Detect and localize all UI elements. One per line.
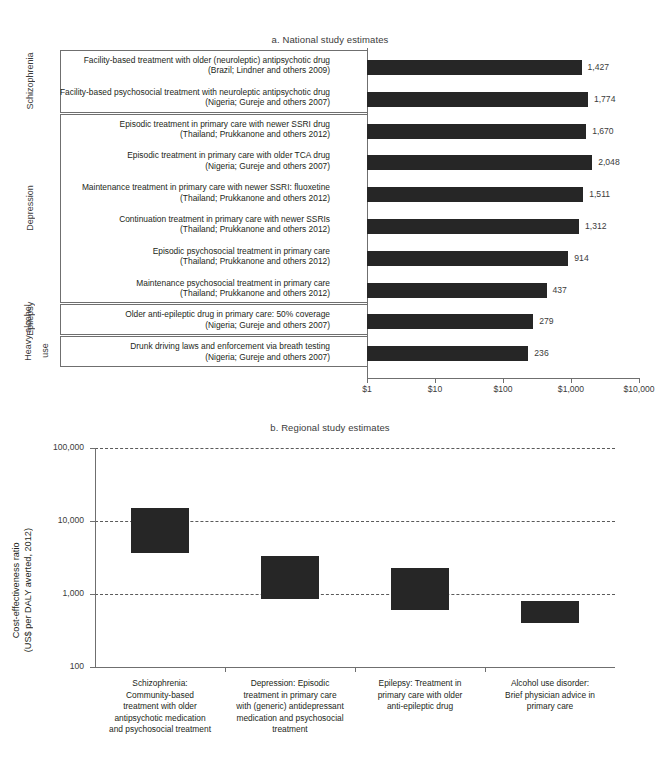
gridline bbox=[95, 594, 615, 595]
row-label-line2: (Thailand; Prukkanone and others 2012) bbox=[45, 288, 330, 298]
y-tick-label: 1,000 bbox=[22, 588, 84, 598]
y-tick-label: 100 bbox=[22, 661, 84, 671]
range-box bbox=[261, 556, 319, 599]
y-tick bbox=[90, 448, 96, 449]
x-tick-label: $10,000 bbox=[623, 384, 654, 394]
table-row: Maintenance treatment in primary care wi… bbox=[60, 182, 660, 208]
bar-value-label: 437 bbox=[553, 283, 567, 298]
row-label: Episodic treatment in primary care with … bbox=[45, 119, 330, 140]
table-row: Episodic treatment in primary care with … bbox=[60, 150, 660, 176]
row-label-line1: Continuation treatment in primary care w… bbox=[45, 214, 330, 224]
group-label-heavy: Heavy alcohol bbox=[24, 298, 33, 368]
panel-national-study-estimates: a. National study estimates Schizophreni… bbox=[0, 0, 660, 400]
y-tick bbox=[90, 521, 96, 522]
x-category-label-line: primary care with older bbox=[355, 690, 485, 702]
x-category-label-line: Epilepsy: Treatment in bbox=[355, 678, 485, 690]
x-tick-label: $1,000 bbox=[558, 384, 584, 394]
table-row: Maintenance psychosocial treatment in pr… bbox=[60, 278, 660, 304]
group-separator bbox=[60, 336, 367, 337]
panel-regional-study-estimates: b. Regional study estimates Cost-effecti… bbox=[0, 400, 660, 758]
row-label-line2: (Nigeria; Gureje and others 2007) bbox=[45, 97, 330, 107]
bar-value-label: 914 bbox=[574, 251, 588, 266]
x-category-label: Depression: Episodictreatment in primary… bbox=[225, 678, 355, 736]
range-box bbox=[391, 568, 449, 611]
x-category-label-line: antipsychotic medication bbox=[95, 713, 225, 725]
group-label-schizophrenia: Schizophrenia bbox=[26, 50, 35, 112]
bar bbox=[367, 92, 588, 107]
bar bbox=[367, 283, 547, 298]
x-category-label-line: Alcohol use disorder: bbox=[485, 678, 615, 690]
row-label-line1: Facility-based treatment with older (neu… bbox=[45, 55, 330, 65]
range-box bbox=[131, 508, 189, 553]
row-label: Drunk driving laws and enforcement via b… bbox=[45, 341, 330, 362]
x-tick bbox=[367, 378, 368, 383]
row-label-line1: Episodic psychosocial treatment in prima… bbox=[45, 246, 330, 256]
row-label-line1: Older anti-epileptic drug in primary car… bbox=[45, 309, 330, 319]
row-label-line2: (Thailand; Prukkanone and others 2012) bbox=[45, 193, 330, 203]
panel-a-title: a. National study estimates bbox=[0, 34, 660, 45]
bar-value-label: 279 bbox=[539, 314, 553, 329]
x-tick bbox=[639, 378, 640, 383]
row-label-line2: (Thailand; Prukkanone and others 2012) bbox=[45, 256, 330, 266]
x-tick bbox=[355, 667, 356, 672]
row-label: Episodic psychosocial treatment in prima… bbox=[45, 246, 330, 267]
x-tick bbox=[485, 667, 486, 672]
bar bbox=[367, 187, 583, 202]
gridline bbox=[95, 448, 615, 449]
x-category-label-line: treatment in primary care bbox=[225, 690, 355, 702]
x-category-label-line: and psychosocial treatment bbox=[95, 724, 225, 736]
x-category-label-line: treatment bbox=[225, 724, 355, 736]
x-category-label: Schizophrenia:Community-basedtreatment w… bbox=[95, 678, 225, 736]
x-category-label-line: medication and psychosocial bbox=[225, 713, 355, 725]
bar-value-label: 1,670 bbox=[592, 124, 614, 139]
x-category-label-line: treatment with older bbox=[95, 701, 225, 713]
y-tick-label: 10,000 bbox=[22, 515, 84, 525]
x-category-label-line: with (generic) antidepressant bbox=[225, 701, 355, 713]
x-category-label-line: Depression: Episodic bbox=[225, 678, 355, 690]
y-axis-label-line1: Cost-effectiveness ratio bbox=[10, 528, 22, 652]
group-label-depression: Depression bbox=[26, 114, 35, 303]
range-box bbox=[521, 601, 579, 623]
bar bbox=[367, 60, 582, 75]
row-label-line2: (Thailand; Prukkanone and others 2012) bbox=[45, 224, 330, 234]
row-label-line1: Drunk driving laws and enforcement via b… bbox=[45, 341, 330, 351]
x-tick-label: $1 bbox=[362, 384, 372, 394]
bar bbox=[367, 219, 579, 234]
group-separator bbox=[60, 304, 367, 305]
x-tick bbox=[435, 378, 436, 383]
table-row: Older anti-epileptic drug in primary car… bbox=[60, 309, 660, 335]
table-row: Facility-based treatment with older (neu… bbox=[60, 55, 660, 81]
x-category-label-line: Brief physician advice in bbox=[485, 690, 615, 702]
row-label: Continuation treatment in primary care w… bbox=[45, 214, 330, 235]
row-label: Facility-based treatment with older (neu… bbox=[45, 55, 330, 76]
row-label: Maintenance psychosocial treatment in pr… bbox=[45, 278, 330, 299]
y-tick-label: 100,000 bbox=[22, 442, 84, 452]
panel-b-y-axis bbox=[95, 448, 96, 667]
x-tick bbox=[571, 378, 572, 383]
row-label-line1: Maintenance treatment in primary care wi… bbox=[45, 182, 330, 192]
row-label: Older anti-epileptic drug in primary car… bbox=[45, 309, 330, 330]
table-row: Facility-based psychosocial treatment wi… bbox=[60, 87, 660, 113]
x-tick-label: $10 bbox=[428, 384, 442, 394]
table-row: Continuation treatment in primary care w… bbox=[60, 214, 660, 240]
x-category-label-line: Community-based bbox=[95, 690, 225, 702]
row-label-line2: (Thailand; Prukkanone and others 2012) bbox=[45, 129, 330, 139]
bar bbox=[367, 346, 528, 361]
bar-value-label: 1,427 bbox=[588, 60, 610, 75]
x-category-label: Epilepsy: Treatment inprimary care with … bbox=[355, 678, 485, 713]
x-category-label: Alcohol use disorder:Brief physician adv… bbox=[485, 678, 615, 713]
x-category-label-line: anti-epileptic drug bbox=[355, 701, 485, 713]
panel-b-title: b. Regional study estimates bbox=[0, 422, 660, 433]
row-label-line1: Episodic treatment in primary care with … bbox=[45, 150, 330, 160]
table-row: Episodic treatment in primary care with … bbox=[60, 119, 660, 145]
bar-value-label: 236 bbox=[534, 346, 548, 361]
row-label: Facility-based psychosocial treatment wi… bbox=[45, 87, 330, 108]
row-label: Episodic treatment in primary care with … bbox=[45, 150, 330, 171]
row-label: Maintenance treatment in primary care wi… bbox=[45, 182, 330, 203]
bar bbox=[367, 155, 592, 170]
table-row: Episodic psychosocial treatment in prima… bbox=[60, 246, 660, 272]
y-tick bbox=[90, 667, 96, 668]
bar-value-label: 1,774 bbox=[594, 92, 616, 107]
bar-value-label: 1,511 bbox=[589, 187, 610, 202]
x-tick bbox=[503, 378, 504, 383]
